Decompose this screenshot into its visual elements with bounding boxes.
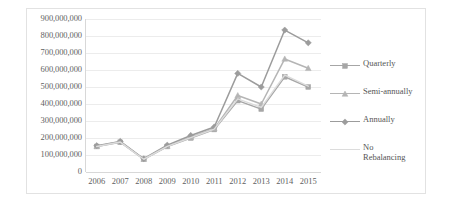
legend-marker-icon [330,61,360,71]
legend-item[interactable]: Semi-annually [330,86,448,105]
legend-label: Quarterly [360,58,396,68]
y-axis-tick-label: 100,000,000 [4,150,82,159]
legend-item[interactable]: Quarterly [330,58,448,77]
series-line [97,30,309,159]
series-annually [94,27,312,162]
data-point [305,40,311,46]
data-point [235,93,241,98]
legend-item[interactable]: Annually [330,114,448,133]
x-axis-labels: 2006200720082009201020112012201320142015 [85,176,320,190]
data-point [282,56,288,61]
series-container [85,19,320,172]
y-axis-tick-label: 300,000,000 [4,116,82,125]
legend-marker-icon [330,117,360,127]
y-axis-tick-label: 0 [4,167,82,176]
y-axis-tick-label: 400,000,000 [4,99,82,108]
x-axis-tick-label: 2015 [293,176,323,187]
legend-marker-icon [330,145,360,155]
series-line [97,59,309,159]
legend-marker-icon [330,89,360,99]
y-axis-tick-label: 600,000,000 [4,65,82,74]
y-axis-tick-label: 200,000,000 [4,133,82,142]
x-axis-line [86,172,321,173]
legend-item[interactable]: No Rebalancing [330,142,448,161]
y-axis-tick-label: 500,000,000 [4,82,82,91]
data-point [235,70,241,76]
y-axis-tick-label: 900,000,000 [4,14,82,23]
chart-legend: QuarterlySemi-annuallyAnnuallyNo Rebalan… [330,58,448,170]
legend-label: Annually [360,114,395,124]
data-point [282,27,288,33]
line-chart: 900,000,000800,000,000700,000,000600,000… [0,0,452,209]
legend-label: No Rebalancing [360,142,405,162]
y-axis-tick-label: 700,000,000 [4,48,82,57]
series-quarterly [94,74,310,161]
data-point [258,84,264,90]
legend-label: Semi-annually [360,86,413,96]
y-axis-labels: 900,000,000800,000,000700,000,000600,000… [0,0,82,209]
y-axis-tick-label: 800,000,000 [4,31,82,40]
